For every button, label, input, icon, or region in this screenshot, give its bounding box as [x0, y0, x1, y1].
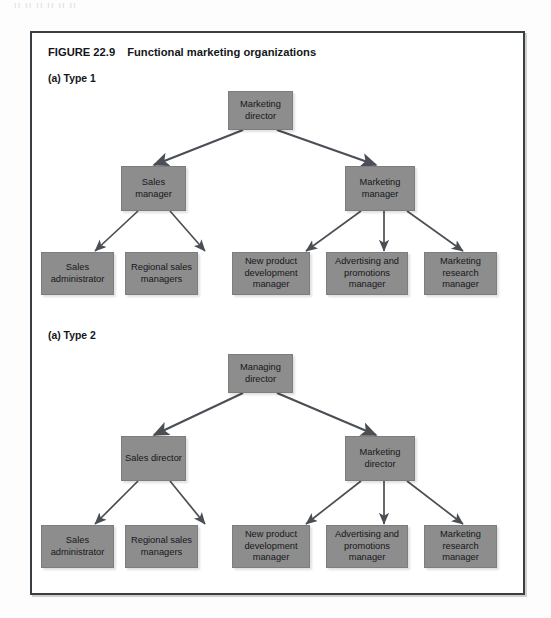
node-type2-leaf-marketing-research-manager[interactable]: Marketing research manager [424, 525, 497, 568]
node-type2-leaf-sales-administrator[interactable]: Sales administrator [41, 525, 114, 568]
edge2-top-to-midright [277, 393, 376, 435]
node-type2-leaf-new-product-development-manager[interactable]: New product development manager [232, 525, 310, 568]
node-type2-leaf-advertising-and-promotions-manager[interactable]: Advertising and promotions manager [326, 525, 408, 568]
node-type1-leaf-advertising-and-promotions-manager[interactable]: Advertising and promotions manager [326, 252, 408, 295]
node-type2-top[interactable]: Managing director [228, 354, 293, 393]
node-type1-leaf-marketing-research-manager[interactable]: Marketing research manager [424, 252, 497, 295]
figure-frame: FIGURE 22.9Functional marketing organiza… [30, 31, 525, 595]
node-type2-marketing-director[interactable]: Marketing director [345, 436, 415, 481]
node-type2-sales-director[interactable]: Sales director [121, 436, 186, 481]
node-type1-sales-manager[interactable]: Sales manager [121, 166, 186, 211]
edge2-midleft-to-leaf-2 [170, 481, 205, 524]
node-type1-leaf-new-product-development-manager[interactable]: New product development manager [232, 252, 310, 295]
figure-page: ıı ıı ıı ıı ıı ıı FIGURE 22.9Functional … [0, 0, 551, 618]
node-type1-leaf-regional-sales-managers[interactable]: Regional sales managers [125, 252, 198, 295]
node-type1-top[interactable]: Marketing director [228, 91, 293, 130]
edge2-midleft-to-leaf-1 [95, 481, 138, 524]
node-type1-leaf-sales-administrator[interactable]: Sales administrator [41, 252, 114, 295]
node-type1-marketing-manager[interactable]: Marketing manager [345, 166, 415, 211]
edge2-top-to-midleft [154, 393, 243, 435]
node-type2-leaf-regional-sales-managers[interactable]: Regional sales managers [125, 525, 198, 568]
edge2-midright-to-leaf-3 [306, 481, 361, 524]
edge2-midright-to-leaf-5 [407, 481, 463, 524]
page-bleed-through-text: ıı ıı ıı ıı ıı ıı [14, 0, 434, 12]
